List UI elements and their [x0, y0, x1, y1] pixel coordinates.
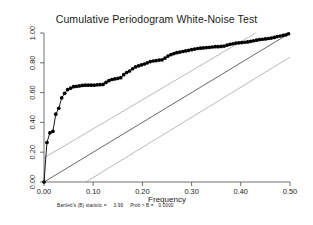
- y-tick-label: 0.40: [28, 115, 37, 129]
- y-axis-ticks: [40, 33, 44, 182]
- chart-figure: Cumulative Periodogram White-Noise Test …: [0, 0, 313, 225]
- bartlett-statistic-footnote: Bartlett's (B) statistic =3.99Prob > B =…: [57, 203, 174, 208]
- x-tick-label: 0.40: [234, 187, 248, 196]
- data-point-marker: [287, 32, 291, 36]
- data-point-marker: [122, 73, 126, 77]
- data-point-marker: [54, 112, 58, 116]
- prob-value: 0.0000: [159, 203, 174, 208]
- data-point-marker: [42, 180, 46, 184]
- x-axis-ticks: [44, 182, 290, 186]
- x-tick-label: 0.10: [86, 187, 100, 196]
- x-tick-label: 0.00: [37, 187, 51, 196]
- prob-label: Prob > B =: [130, 203, 153, 208]
- data-point-marker: [119, 76, 123, 80]
- cumulative-periodogram-plot: 0.00 0.20 0.40 0.60 0.80 1.00 0.00 0.10 …: [0, 0, 313, 225]
- statistic-value: 3.99: [114, 203, 124, 208]
- x-tick-label: 0.50: [283, 187, 297, 196]
- y-tick-label: 1.00: [28, 26, 37, 40]
- data-point-marker: [51, 129, 55, 133]
- data-point-marker: [57, 106, 61, 110]
- data-point-marker: [60, 96, 64, 100]
- y-tick-label: 0.60: [28, 85, 37, 99]
- y-tick-label: 0.20: [28, 145, 37, 159]
- data-point-marker: [45, 141, 49, 145]
- y-axis-tick-labels: 0.00 0.20 0.40 0.60 0.80 1.00: [28, 26, 37, 189]
- data-point-marker: [128, 69, 132, 73]
- upper-confidence-band: [44, 33, 256, 158]
- y-tick-label: 0.00: [28, 175, 37, 189]
- statistic-label: Bartlett's (B) statistic =: [57, 203, 107, 208]
- data-point-marker: [63, 91, 67, 95]
- y-tick-label: 0.80: [28, 56, 37, 70]
- lower-confidence-band: [86, 57, 290, 182]
- x-tick-label: 0.30: [184, 187, 198, 196]
